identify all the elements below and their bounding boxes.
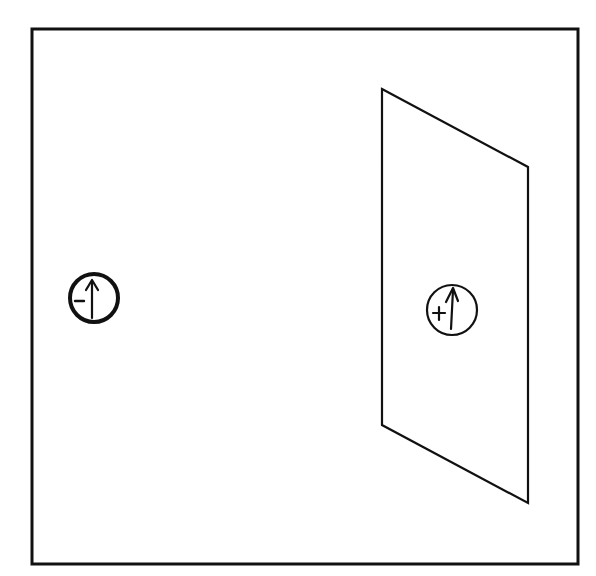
outer-frame <box>32 29 578 564</box>
right-arrow-shaft <box>451 290 453 329</box>
positive-up-arrow-icon <box>427 285 477 335</box>
diagram-canvas <box>0 0 596 576</box>
negative-up-arrow-icon <box>70 274 118 322</box>
